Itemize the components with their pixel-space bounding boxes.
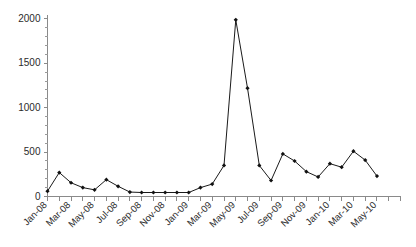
y-axis: 0500100015002000 (18, 13, 47, 202)
data-point-marker (198, 186, 202, 190)
data-point-marker (234, 18, 238, 22)
data-series (45, 18, 379, 195)
chart-container: 0500100015002000 Jan-08Mar-08May-08Jul-0… (0, 0, 416, 247)
data-point-marker (175, 190, 179, 194)
data-point-marker (187, 190, 191, 194)
y-axis-tick-label: 2000 (18, 13, 41, 24)
data-point-marker (163, 190, 167, 194)
x-axis-tick-label: Nov-09 (278, 199, 307, 228)
x-axis-tick-label: May-08 (66, 199, 96, 229)
data-point-marker (81, 186, 85, 190)
x-axis-tick-label: Jan-08 (21, 199, 49, 227)
data-point-marker (140, 190, 144, 194)
x-axis-tick-label: May-09 (207, 199, 237, 229)
data-point-marker (245, 86, 249, 90)
data-point-marker (116, 184, 120, 188)
y-axis-tick-label: 1000 (18, 102, 41, 113)
x-axis-tick-label: Sep-08 (114, 199, 143, 228)
y-axis-tick-label: 1500 (18, 57, 41, 68)
x-axis-tick-label: Nov-08 (137, 199, 166, 228)
line-chart: 0500100015002000 Jan-08Mar-08May-08Jul-0… (0, 0, 416, 247)
data-point-marker (128, 190, 132, 194)
x-axis-tick-label: May-10 (348, 199, 378, 229)
x-axis-tick-label: Jan-10 (303, 199, 331, 227)
series-line (48, 20, 377, 193)
data-point-marker (151, 190, 155, 194)
x-axis-tick-label: Sep-09 (255, 199, 284, 228)
y-axis-tick-label: 500 (24, 146, 41, 157)
x-axis-tick-label: Jan-09 (162, 199, 190, 227)
x-axis-tick-labels: Jan-08Mar-08May-08Jul-08Sep-08Nov-08Jan-… (21, 199, 379, 229)
